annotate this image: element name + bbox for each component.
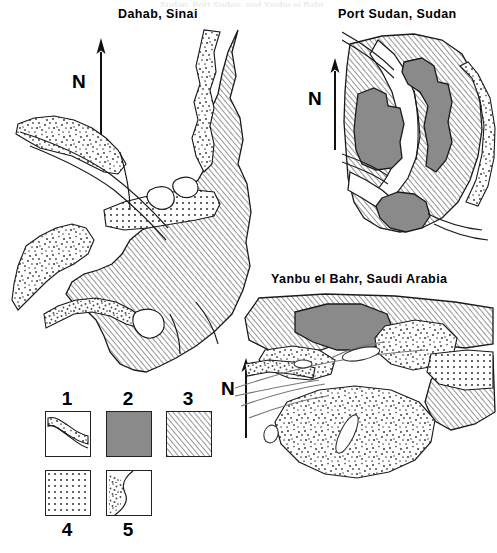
legend-number-5: 5 (113, 519, 143, 541)
legend-swatch-4-art (46, 471, 90, 515)
north-label-yanbu: N (221, 378, 235, 400)
map-title-yanbu: Yanbu el Bahr, Saudi Arabia (271, 272, 447, 286)
map-yanbu (235, 292, 497, 542)
legend-swatch-1-art (46, 412, 90, 456)
legend-swatch-5-art (107, 471, 151, 515)
legend-swatch-2 (106, 411, 152, 457)
figure-canvas: Sudan, Port Sudan, and Yanbu el Bahr (0, 0, 497, 553)
north-label-port-sudan: N (308, 88, 322, 110)
legend-number-4: 4 (52, 519, 82, 541)
legend-number-3: 3 (173, 388, 203, 410)
page-artifact-text: Sudan, Port Sudan, and Yanbu el Bahr (160, 0, 460, 7)
legend-swatch-4 (45, 470, 91, 516)
legend-swatch-3 (166, 411, 212, 457)
legend-number-2: 2 (113, 388, 143, 410)
legend-swatch-1 (45, 411, 91, 457)
map-dahab (0, 14, 260, 394)
legend-swatch-5 (106, 470, 152, 516)
map-title-port-sudan: Port Sudan, Sudan (338, 7, 457, 21)
legend-swatch-3-art (167, 412, 211, 456)
map-port-sudan (342, 26, 497, 261)
legend-number-1: 1 (52, 388, 82, 410)
